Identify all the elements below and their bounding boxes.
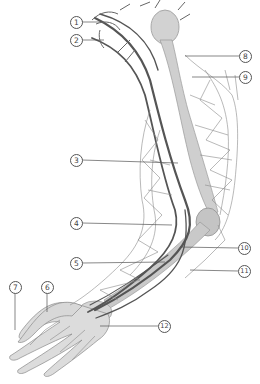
callout-1: 1 bbox=[70, 16, 83, 29]
callout-6: 6 bbox=[41, 281, 54, 294]
arm-illustration bbox=[0, 0, 260, 384]
humeral-head bbox=[151, 10, 179, 44]
callout-11: 11 bbox=[238, 265, 251, 278]
callout-3: 3 bbox=[70, 154, 83, 167]
anatomy-figure: 1 2 3 4 5 6 7 8 9 10 11 12 bbox=[0, 0, 260, 384]
callout-7: 7 bbox=[9, 281, 22, 294]
callout-12: 12 bbox=[158, 320, 171, 333]
callout-8: 8 bbox=[239, 50, 252, 63]
callout-5: 5 bbox=[70, 257, 83, 270]
callout-9: 9 bbox=[239, 71, 252, 84]
callout-10: 10 bbox=[238, 242, 251, 255]
callout-2: 2 bbox=[70, 34, 83, 47]
callout-4: 4 bbox=[70, 217, 83, 230]
